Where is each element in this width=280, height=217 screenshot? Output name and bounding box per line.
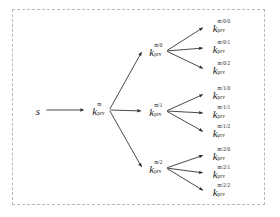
node-subscript-m01: prv — [218, 49, 226, 54]
node-subscript-m21: prv — [218, 174, 226, 179]
node-subscript-m: prv — [97, 111, 105, 116]
edge-m1-to-m10 — [167, 95, 202, 111]
edge-m-to-m2 — [110, 111, 142, 167]
node-base-m0: km/0prv — [149, 47, 154, 58]
node-m1: km/1prv — [149, 103, 154, 119]
node-superscript-m02: m/0/2 — [218, 61, 231, 66]
node-base-m12: km/1/2prv — [213, 128, 218, 139]
node-subscript-m0: prv — [154, 52, 162, 57]
node-base-m1: km/1prv — [149, 107, 154, 118]
node-superscript-m1: m/1 — [154, 103, 162, 108]
node-base-m02: km/0/2prv — [213, 65, 218, 76]
edge-m-to-m1 — [110, 110, 140, 111]
edge-m0-to-m00 — [167, 28, 203, 51]
node-m10: km/1/0prv — [213, 86, 218, 102]
node-subscript-m02: prv — [218, 70, 226, 75]
node-m00: km/0/0prv — [213, 19, 218, 35]
node-base-m10: km/1/0prv — [213, 90, 218, 101]
node-superscript-m20: m/2/0 — [218, 147, 231, 152]
node-m02: km/0/2prv — [213, 61, 218, 77]
node-subscript-m00: prv — [218, 28, 226, 33]
node-m12: km/1/2prv — [213, 124, 218, 140]
node-subscript-m22: prv — [218, 192, 226, 197]
node-superscript-m22: m/2/2 — [218, 183, 231, 188]
diagram-canvas: skmprvkm/0prvkm/1prvkm/2prvkm/0/0prvkm/0… — [0, 0, 280, 217]
node-m01: km/0/1prv — [213, 40, 218, 56]
node-base-m22: km/2/2prv — [213, 187, 218, 198]
node-superscript-m00: m/0/0 — [218, 19, 231, 24]
node-s: s — [36, 102, 40, 118]
edge-m-to-m0 — [110, 52, 142, 109]
node-base-m: kmprv — [92, 106, 97, 117]
edge-m1-to-m12 — [167, 111, 203, 131]
node-base-m01: km/0/1prv — [213, 44, 218, 55]
node-superscript-m01: m/0/1 — [218, 40, 231, 45]
node-subscript-m11: prv — [218, 114, 226, 119]
node-base-m20: km/2/0prv — [213, 151, 218, 162]
node-superscript-m: m — [97, 102, 101, 107]
node-superscript-m11: m/1/1 — [218, 105, 231, 110]
edge-m2-to-m20 — [167, 155, 202, 167]
node-m11: km/1/1prv — [213, 105, 218, 121]
node-m: kmprv — [92, 102, 97, 118]
node-m2: km/2prv — [149, 160, 154, 176]
node-base-m00: km/0/0prv — [213, 23, 218, 34]
edge-layer — [0, 0, 280, 217]
node-m21: km/2/1prv — [213, 165, 218, 181]
node-subscript-m2: prv — [154, 169, 162, 174]
edge-m1-to-m11 — [167, 111, 202, 113]
node-superscript-m10: m/1/0 — [218, 86, 231, 91]
node-subscript-m20: prv — [218, 156, 226, 161]
edge-m0-to-m02 — [167, 51, 202, 68]
node-m20: km/2/0prv — [213, 147, 218, 163]
node-subscript-m1: prv — [154, 112, 162, 117]
node-base-m11: km/1/1prv — [213, 109, 218, 120]
node-m22: km/2/2prv — [213, 183, 218, 199]
node-superscript-m21: m/2/1 — [218, 165, 231, 170]
node-superscript-m0: m/0 — [154, 43, 162, 48]
node-superscript-m12: m/1/2 — [218, 124, 231, 129]
node-base-m21: km/2/1prv — [213, 169, 218, 180]
node-superscript-m2: m/2 — [154, 160, 162, 165]
node-label-s: s — [36, 105, 40, 117]
node-subscript-m12: prv — [218, 133, 226, 138]
edge-m0-to-m01 — [167, 48, 202, 51]
node-m0: km/0prv — [149, 43, 154, 59]
node-subscript-m10: prv — [218, 95, 226, 100]
node-base-m2: km/2prv — [149, 164, 154, 175]
